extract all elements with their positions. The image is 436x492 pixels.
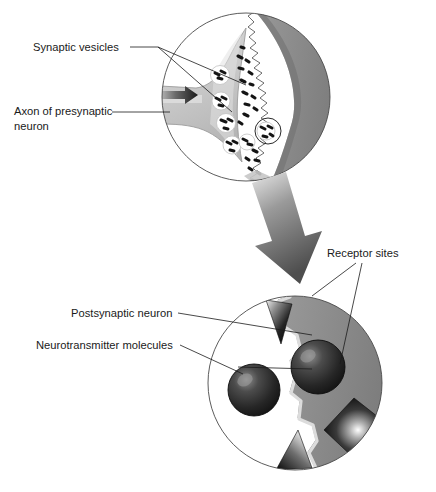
label-axon-line2: neuron: [14, 120, 49, 132]
label-axon-line1: Axon of presynaptic: [14, 105, 113, 117]
neurotransmitter-sphere-free: [228, 364, 280, 416]
upper-panel-contents: [157, 6, 340, 190]
label-synaptic-vesicles: Synaptic vesicles: [33, 41, 119, 53]
lower-panel: [205, 286, 392, 475]
label-postsynaptic-neuron: Postsynaptic neuron: [71, 307, 172, 319]
upper-panel: [157, 6, 340, 190]
diagram-page: Synaptic vesicles Axon of presynaptic ne…: [0, 0, 436, 492]
label-neurotransmitter-molecules: Neurotransmitter molecules: [36, 339, 173, 351]
lower-panel-contents: [205, 286, 392, 475]
synapse-diagram: Synaptic vesicles Axon of presynaptic ne…: [0, 0, 436, 492]
neurotransmitter-sphere-bound: [291, 340, 345, 394]
magnification-arrow: [252, 172, 322, 284]
label-receptor-sites: Receptor sites: [327, 247, 399, 259]
leader-receptor-a: [312, 263, 356, 296]
